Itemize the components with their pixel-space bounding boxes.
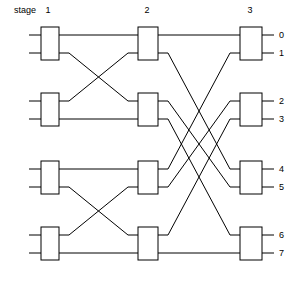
output-label-7: 7 (279, 248, 284, 258)
switch-box-s2-r1[interactable] (138, 27, 158, 60)
multistage-network-svg: stage 1 2 3 01234567 (0, 0, 291, 291)
header-row: stage 1 2 3 (14, 5, 253, 15)
switch-box-s1-r2[interactable] (41, 93, 59, 126)
output-label-3: 3 (279, 114, 284, 124)
wire-layer (29, 35, 274, 253)
switch-box-s2-r2[interactable] (138, 93, 158, 126)
stage-header-label: stage (14, 5, 36, 15)
output-label-6: 6 (279, 230, 284, 240)
stage-number-1: 1 (45, 5, 50, 15)
switch-box-layer (41, 27, 262, 260)
output-label-4: 4 (279, 164, 284, 174)
output-label-1: 1 (279, 48, 284, 58)
switch-box-s1-r3[interactable] (41, 161, 59, 194)
switch-box-s1-r4[interactable] (41, 227, 59, 260)
switch-box-s2-r4[interactable] (138, 227, 158, 260)
stage-number-2: 2 (144, 5, 149, 15)
switch-box-s3-r2[interactable] (240, 93, 262, 126)
stage-number-3: 3 (247, 5, 252, 15)
network-diagram-canvas: stage 1 2 3 01234567 (0, 0, 291, 291)
switch-box-s1-r1[interactable] (41, 27, 59, 60)
switch-box-s3-r3[interactable] (240, 161, 262, 194)
switch-box-s3-r1[interactable] (240, 27, 262, 60)
output-label-layer: 01234567 (279, 30, 284, 258)
switch-box-s2-r3[interactable] (138, 161, 158, 194)
output-label-5: 5 (279, 182, 284, 192)
switch-box-s3-r4[interactable] (240, 227, 262, 260)
output-label-0: 0 (279, 30, 284, 40)
output-label-2: 2 (279, 96, 284, 106)
